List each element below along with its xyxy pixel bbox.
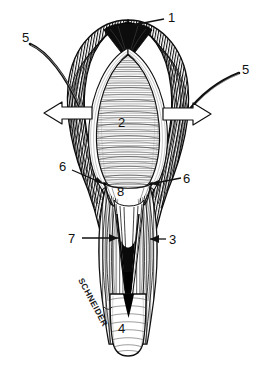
figure-root: 1 5 5 2 6 6 8 7 3 4 SCHNEIDER (0, 0, 265, 366)
label-8: 8 (117, 184, 124, 199)
label-5-right: 5 (242, 62, 249, 77)
label-4: 4 (118, 321, 125, 336)
label-1: 1 (168, 10, 175, 25)
label-5-left: 5 (22, 30, 29, 45)
label-7: 7 (68, 231, 75, 246)
anatomical-diagram: 1 5 5 2 6 6 8 7 3 4 SCHNEIDER (0, 0, 265, 366)
label-2: 2 (118, 115, 125, 130)
label-6-left: 6 (59, 159, 66, 174)
tube-group (109, 294, 147, 356)
label-6-right: 6 (183, 171, 190, 186)
label-3: 3 (169, 232, 176, 247)
